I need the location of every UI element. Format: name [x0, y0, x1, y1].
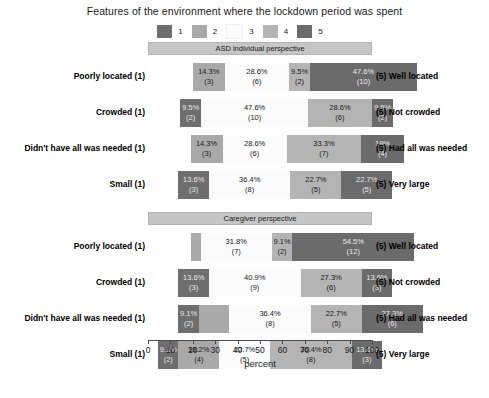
chart-row: Didn't have all was needed (1)14.3%(3)28…	[0, 131, 489, 167]
segment-count-label: (7)	[319, 149, 328, 159]
segment-count-label: (5)	[332, 319, 341, 329]
segment-count-label: (8)	[265, 319, 274, 329]
segment-percent-label: 28.6%	[244, 139, 265, 149]
segment-percent-label: 28.6%	[246, 67, 267, 77]
segment-percent-label: 22.7%	[305, 175, 326, 185]
x-axis-tick	[193, 340, 194, 344]
segment-count-label: (7)	[232, 247, 241, 257]
x-axis-tick	[148, 340, 149, 344]
stacked-bar: 9.1%(2)36.4%(8)22.7%(5)27.3%(6)	[148, 305, 372, 333]
segment-count-label: (6)	[252, 77, 261, 87]
bar-segment: 22.7%(5)	[311, 305, 362, 333]
legend-item: 2	[192, 25, 217, 38]
bar-segment: 28.6%(6)	[223, 135, 287, 163]
segment-percent-label: 31.8%	[226, 237, 247, 247]
segment-count-label: (3)	[189, 283, 198, 293]
panel-rows-asd: Poorly located (1)14.3%(3)28.6%(6)9.5%(2…	[0, 59, 489, 203]
stacked-bar: 9.5%(2)47.6%(10)28.6%(6)9.5%(2)	[148, 99, 372, 127]
segment-percent-label: 22.7%	[356, 175, 377, 185]
segment-percent-label: 9.1%	[273, 237, 290, 247]
segment-count-label: (3)	[202, 149, 211, 159]
segment-percent-label: 47.6%	[353, 67, 374, 77]
legend-label: 5	[318, 27, 322, 36]
segment-count-label: (2)	[277, 247, 286, 257]
segment-count-label: (12)	[347, 247, 360, 257]
segment-percent-label: 14.3%	[196, 139, 217, 149]
bar-segment: 36.4%(8)	[229, 305, 311, 333]
bar-segment: 40.9%(9)	[209, 269, 301, 297]
segment-count-label: (6)	[327, 283, 336, 293]
row-right-label: (5) Had all was needed	[376, 313, 467, 323]
segment-count-label: (2)	[186, 113, 195, 123]
row-right-label: (5) Very large	[376, 179, 429, 189]
panel-strip-asd: ASD individual perspective	[148, 42, 372, 55]
row-right-label: (5) Not crowded	[376, 107, 440, 117]
chart-row: Poorly located (1)31.8%(7)9.1%(2)54.5%(1…	[0, 229, 489, 265]
stacked-bar: 14.3%(3)28.6%(6)33.3%(7)19%(4)	[148, 135, 372, 163]
segment-percent-label: 36.4%	[239, 175, 260, 185]
bar-segment: 31.8%(7)	[201, 233, 272, 261]
row-left-label: Poorly located (1)	[74, 241, 145, 251]
segment-percent-label: 9.5%	[182, 103, 199, 113]
segment-count-label: (10)	[248, 113, 261, 123]
segment-percent-label: 40.9%	[244, 273, 265, 283]
segment-percent-label: 54.5%	[343, 237, 364, 247]
panel-strip-label: Caregiver perspective	[224, 214, 297, 223]
legend-label: 1	[178, 27, 182, 36]
row-left-label: Didn't have all was needed (1)	[24, 143, 145, 153]
panel-strip-caregiver: Caregiver perspective	[148, 212, 372, 225]
legend-item: 3	[226, 24, 253, 39]
segment-percent-label: 27.3%	[320, 273, 341, 283]
bar-segment: 13.6%(3)	[178, 171, 208, 199]
bar-segment: 9.1%(2)	[272, 233, 292, 261]
segment-count-label: (5)	[311, 185, 320, 195]
segment-count-label: (3)	[204, 77, 213, 87]
panel-strip-label: ASD individual perspective	[215, 44, 304, 53]
x-axis-tick	[350, 340, 351, 344]
x-axis-tick	[282, 340, 283, 344]
x-axis: 0102030405060708090100 percent	[0, 340, 489, 398]
segment-count-label: (6)	[250, 149, 259, 159]
x-axis-tick-label: 40	[233, 345, 242, 355]
x-axis-title: percent	[148, 358, 372, 369]
row-right-label: (5) Well located	[376, 241, 438, 251]
legend-swatch	[297, 25, 312, 38]
segment-count-label: (3)	[189, 185, 198, 195]
chart-row: Crowded (1)13.6%(3)40.9%(9)27.3%(6)13.6%…	[0, 265, 489, 301]
segment-count-label: (8)	[245, 185, 254, 195]
stacked-bar: 31.8%(7)9.1%(2)54.5%(12)	[148, 233, 372, 261]
segment-percent-label: 13.6%	[183, 175, 204, 185]
chart-row: Small (1)13.6%(3)36.4%(8)22.7%(5)22.7%(5…	[0, 167, 489, 203]
segment-percent-label: 33.3%	[313, 139, 334, 149]
segment-count-label: (9)	[250, 283, 259, 293]
chart-row: Poorly located (1)14.3%(3)28.6%(6)9.5%(2…	[0, 59, 489, 95]
row-right-label: (5) Well located	[376, 71, 438, 81]
bar-segment: 14.3%(3)	[193, 63, 225, 91]
bar-segment: 9.5%(2)	[289, 63, 310, 91]
x-axis-tick	[215, 340, 216, 344]
legend-item: 4	[263, 25, 288, 38]
x-axis-tick	[170, 340, 171, 344]
legend-swatch	[157, 25, 172, 38]
x-axis-tick-label: 20	[188, 345, 197, 355]
segment-percent-label: 14.3%	[198, 67, 219, 77]
bar-segment: 47.6%(10)	[201, 99, 308, 127]
x-axis-tick	[260, 340, 261, 344]
bar-segment	[191, 233, 201, 261]
row-right-label: (5) Not crowded	[376, 277, 440, 287]
segment-percent-label: 36.4%	[259, 309, 280, 319]
bar-segment: 36.4%(8)	[209, 171, 291, 199]
row-left-label: Crowded (1)	[96, 107, 145, 117]
segment-count-label: (10)	[357, 77, 370, 87]
x-axis-tick-label: 10	[166, 345, 175, 355]
segment-percent-label: 9.5%	[291, 67, 308, 77]
row-right-label: (5) Had all was needed	[376, 143, 467, 153]
row-left-label: Didn't have all was needed (1)	[24, 313, 145, 323]
segment-percent-label: 9.1%	[180, 309, 197, 319]
segment-percent-label: 28.6%	[329, 103, 350, 113]
bar-segment: 22.7%(5)	[290, 171, 341, 199]
legend-item: 5	[297, 25, 322, 38]
bar-segment	[199, 305, 229, 333]
x-axis-tick-label: 80	[322, 345, 331, 355]
bar-segment: 13.6%(3)	[178, 269, 208, 297]
